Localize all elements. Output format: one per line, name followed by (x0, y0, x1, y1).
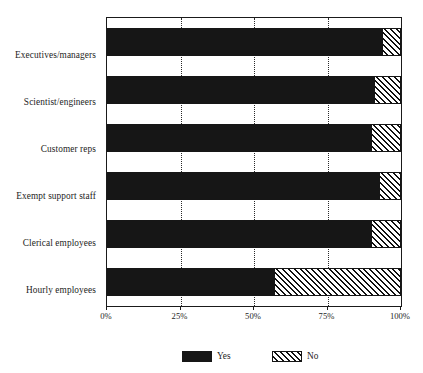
bar-segment-no (383, 28, 401, 56)
legend-entry-no: No (272, 350, 318, 363)
bar-row (107, 172, 401, 200)
chart-legend: Yes No (0, 350, 423, 366)
legend-label-yes: Yes (217, 351, 231, 362)
category-label-scientist-engineers: Scientist/engineers (0, 97, 96, 107)
gridline-50 (254, 18, 255, 306)
x-axis-tick-labels: 0%25%50%75%100% (0, 310, 423, 324)
bar-row (107, 268, 401, 296)
legend-swatch-yes-icon (182, 351, 212, 362)
category-label-exempt-support-staff: Exempt support staff (0, 191, 96, 201)
bar-segment-no (275, 268, 401, 296)
plot-area (106, 17, 402, 307)
legend-swatch-no-icon (272, 351, 302, 362)
plot-inner (107, 18, 401, 306)
bar-segment-yes (107, 124, 372, 152)
x-tick-label: 25% (172, 310, 188, 322)
x-tick-label: 0% (100, 310, 111, 322)
gridline-75 (328, 18, 329, 306)
bar-segment-no (372, 220, 401, 248)
bar-segment-no (380, 172, 401, 200)
bar-row (107, 220, 401, 248)
bar-row (107, 76, 401, 104)
gridline-25 (181, 18, 182, 306)
bar-row (107, 28, 401, 56)
bar-segment-yes (107, 28, 383, 56)
bar-segment-yes (107, 268, 275, 296)
category-label-hourly-employees: Hourly employees (0, 285, 96, 295)
bar-segment-yes (107, 76, 375, 104)
category-axis-labels: Executives/managers Scientist/engineers … (0, 17, 101, 305)
x-tick-label: 50% (245, 310, 261, 322)
legend-entry-yes: Yes (182, 350, 231, 363)
stacked-bar-chart: Executives/managers Scientist/engineers … (0, 0, 423, 373)
category-label-executives-managers: Executives/managers (0, 50, 96, 60)
bar-segment-no (372, 124, 401, 152)
x-tick-label: 100% (390, 310, 410, 322)
category-label-clerical-employees: Clerical employees (0, 238, 96, 248)
category-label-customer-reps: Customer reps (0, 144, 96, 154)
legend-label-no: No (307, 351, 318, 362)
bar-segment-no (375, 76, 401, 104)
bar-segment-yes (107, 220, 372, 248)
bar-segment-yes (107, 172, 380, 200)
x-tick-label: 75% (319, 310, 335, 322)
bar-row (107, 124, 401, 152)
